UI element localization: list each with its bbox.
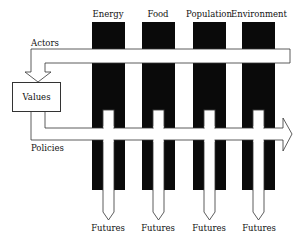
futures-label-food: Futures	[141, 224, 175, 233]
futures-label-population: Futures	[192, 224, 226, 233]
futures-label-environment: Futures	[242, 224, 276, 233]
futures-label-energy: Futures	[91, 224, 125, 233]
column-label-food: Food	[147, 10, 168, 19]
column-label-environment: Environment	[231, 10, 287, 19]
inner-channels	[103, 110, 264, 190]
environment-futures-arrow	[253, 189, 264, 220]
values-box: Values	[12, 82, 61, 112]
diagram-graphics	[0, 0, 301, 240]
population-futures-arrow	[204, 189, 215, 220]
population-slot	[204, 110, 215, 128]
futures-arrows	[103, 189, 264, 220]
actors-label: Actors	[31, 39, 59, 48]
policy-futures-diagram: Energy Food Population Environment Actor…	[0, 0, 301, 240]
column-label-energy: Energy	[92, 10, 123, 19]
slot-tops	[103, 110, 264, 128]
environment-slot	[253, 110, 264, 128]
column-label-population: Population	[186, 10, 232, 19]
energy-slot	[103, 110, 114, 128]
column-bars	[92, 22, 275, 190]
food-slot	[153, 110, 164, 128]
energy-futures-arrow	[103, 189, 114, 220]
food-futures-arrow	[153, 189, 164, 220]
policies-label: Policies	[31, 144, 64, 153]
